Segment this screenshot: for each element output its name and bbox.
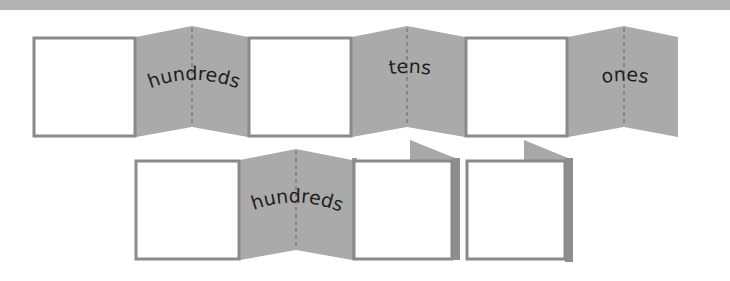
blank-box — [249, 38, 351, 136]
panel-tens — [352, 26, 465, 137]
blank-box — [467, 161, 565, 259]
folded-flap — [524, 140, 568, 160]
place-value-foldable-diagram: hundreds tens ones hundreds — [0, 0, 730, 281]
blank-box — [136, 161, 239, 259]
blank-box — [466, 38, 567, 136]
blank-box — [354, 161, 452, 259]
folded-flap — [410, 140, 455, 160]
row-1-foldable: hundreds tens ones — [34, 26, 678, 137]
blank-box — [34, 38, 135, 136]
label-ones: ones — [600, 63, 651, 88]
row-2-foldable: hundreds — [136, 140, 573, 262]
label-tens: tens — [387, 55, 432, 79]
